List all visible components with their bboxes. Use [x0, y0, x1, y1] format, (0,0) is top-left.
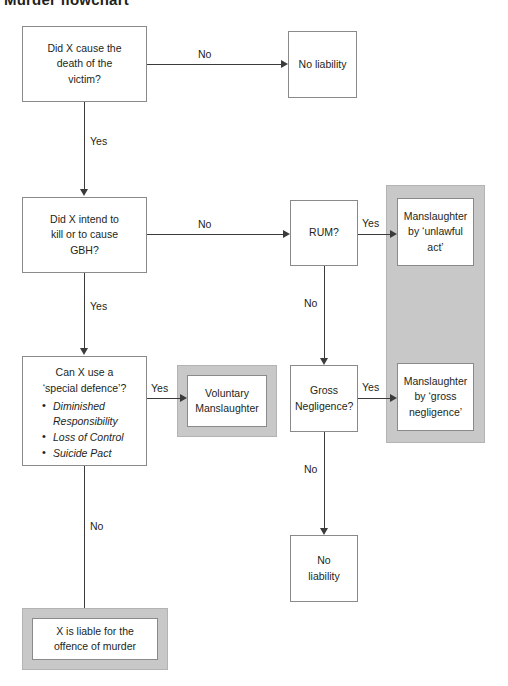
node-line-3: act’	[427, 241, 443, 253]
special-defence-list: Diminished Responsibility Loss of Contro…	[29, 399, 140, 462]
edge-label-defence-no: No	[90, 520, 103, 532]
list-item: Loss of Control	[53, 430, 140, 445]
node-rum[interactable]: RUM?	[290, 200, 358, 266]
node-line-2: by ‘unlawful	[408, 225, 463, 237]
edge-cause-no-line	[147, 64, 281, 65]
node-line-2: Negligence?	[295, 400, 353, 412]
edge-label-cause-no: No	[198, 48, 211, 60]
node-line-1: RUM?	[295, 225, 353, 240]
edge-rum-no-arrow	[320, 358, 328, 365]
edge-intend-yes-line	[84, 273, 85, 348]
node-line-1: No	[317, 554, 330, 566]
edge-label-gross-yes: Yes	[362, 381, 379, 393]
edge-gross-no-arrow	[320, 528, 328, 535]
edge-gross-yes-arrow	[390, 394, 397, 402]
node-line-2: death of the	[57, 57, 112, 69]
edge-defence-yes-line	[147, 398, 180, 399]
node-line-1: Did X cause the	[47, 42, 121, 54]
node-line-3: victim?	[68, 73, 101, 85]
node-did-x-intend-kill[interactable]: Did X intend to kill or to cause GBH?	[22, 197, 147, 273]
edge-label-intend-no: No	[198, 218, 211, 230]
edge-intend-yes-arrow	[80, 348, 88, 355]
node-line-1: Manslaughter	[404, 210, 468, 222]
list-item: Diminished Responsibility	[53, 399, 140, 429]
node-line-2: kill or to cause	[51, 228, 118, 240]
node-x-liable-murder[interactable]: X is liable for the offence of murder	[32, 618, 158, 660]
edge-intend-no-arrow	[283, 230, 290, 238]
edge-rum-yes-arrow	[390, 230, 397, 238]
node-line-2: offence of murder	[54, 640, 136, 652]
node-no-liability-bottom[interactable]: No liability	[290, 535, 358, 602]
node-line-3: GBH?	[70, 244, 99, 256]
node-line-1: Manslaughter	[404, 375, 468, 387]
murder-flowchart: Murder flowchart Did X cause the death o…	[0, 0, 508, 686]
special-defence-head-2: ‘special defence’?	[29, 381, 140, 397]
edge-label-gross-no: No	[304, 463, 317, 475]
node-voluntary-manslaughter[interactable]: Voluntary Manslaughter	[187, 375, 267, 427]
node-line-1: Did X intend to	[50, 213, 119, 225]
node-gross-negligence[interactable]: Gross Negligence?	[290, 365, 358, 432]
node-no-liability-top[interactable]: No liability	[288, 31, 357, 98]
node-line-2: by ‘gross	[414, 390, 456, 402]
node-line-1: Voluntary	[205, 387, 249, 399]
node-manslaughter-gross-negligence[interactable]: Manslaughter by ‘gross negligence’	[397, 363, 474, 431]
edge-label-rum-yes: Yes	[362, 217, 379, 229]
special-defence-head-1: Can X use a	[29, 365, 140, 381]
node-line-1: X is liable for the	[56, 625, 134, 637]
node-line-1: Gross	[310, 384, 338, 396]
edge-label-intend-yes: Yes	[90, 300, 107, 312]
node-manslaughter-unlawful-act[interactable]: Manslaughter by ‘unlawful act’	[397, 198, 474, 266]
edge-defence-no-line	[84, 466, 85, 613]
node-line-3: negligence’	[409, 406, 462, 418]
edge-defence-yes-arrow	[180, 394, 187, 402]
edge-label-cause-yes: Yes	[90, 135, 107, 147]
edge-cause-yes-arrow	[80, 189, 88, 196]
page-title: Murder flowchart	[4, 0, 129, 8]
edge-gross-yes-line	[358, 398, 390, 399]
node-line-1: No liability	[293, 57, 352, 72]
edge-gross-no-line	[324, 432, 325, 528]
edge-cause-yes-line	[84, 102, 85, 189]
edge-label-defence-yes: Yes	[151, 382, 168, 394]
edge-intend-no-line	[147, 234, 283, 235]
node-line-2: liability	[308, 570, 340, 582]
node-line-2: Manslaughter	[195, 402, 259, 414]
node-special-defence[interactable]: Can X use a ‘special defence’? Diminishe…	[22, 356, 147, 466]
edge-rum-no-line	[324, 266, 325, 358]
edge-label-rum-no: No	[304, 297, 317, 309]
list-item: Suicide Pact	[53, 446, 140, 461]
node-did-x-cause-death[interactable]: Did X cause the death of the victim?	[22, 26, 147, 102]
edge-rum-yes-line	[358, 234, 390, 235]
edge-cause-no-arrow	[281, 60, 288, 68]
